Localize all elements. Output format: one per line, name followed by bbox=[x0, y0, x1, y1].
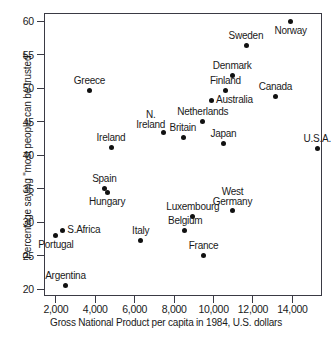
data-point-label: France bbox=[189, 241, 219, 252]
x-axis-tick-label: 14,000 bbox=[264, 303, 320, 315]
data-point-label: Japan bbox=[210, 129, 236, 140]
data-point-label: Netherlands bbox=[177, 107, 228, 118]
data-point-label: Greece bbox=[74, 76, 105, 87]
y-axis-tick bbox=[37, 255, 45, 256]
data-point[interactable] bbox=[138, 238, 143, 243]
plot-frame bbox=[44, 13, 322, 296]
data-point-label: Finland bbox=[210, 76, 241, 87]
y-axis-tick bbox=[37, 222, 45, 223]
data-point[interactable] bbox=[209, 98, 214, 103]
y-axis-tick bbox=[37, 121, 45, 122]
data-point-label: Norway bbox=[274, 26, 306, 37]
data-point-label: Italy bbox=[132, 226, 149, 237]
data-point-label: Portugal bbox=[38, 240, 73, 251]
data-point-label: Denmark bbox=[213, 61, 252, 72]
data-point-label: Luxembourg bbox=[166, 202, 219, 213]
y-axis-title: Percentage saying "most people can be tr… bbox=[22, 11, 33, 301]
data-point[interactable] bbox=[181, 135, 186, 140]
data-point[interactable] bbox=[109, 145, 114, 150]
y-axis-tick bbox=[37, 54, 45, 55]
x-axis-tick bbox=[292, 296, 293, 303]
data-point-label: S.Africa bbox=[67, 225, 100, 236]
x-axis-tick bbox=[213, 296, 214, 303]
data-point-label: Sweden bbox=[229, 31, 264, 42]
data-point[interactable] bbox=[87, 88, 92, 93]
data-point-label: Ireland bbox=[97, 133, 126, 144]
x-axis-title: Gross National Product per capita in 198… bbox=[0, 317, 332, 328]
y-axis-tick bbox=[37, 188, 45, 189]
data-point-label: Australia bbox=[216, 95, 253, 106]
y-axis-tick bbox=[37, 155, 45, 156]
data-point[interactable] bbox=[315, 146, 320, 151]
data-point[interactable] bbox=[105, 190, 110, 195]
x-axis-tick bbox=[95, 296, 96, 303]
y-axis-tick bbox=[37, 289, 45, 290]
data-point-label: Argentina bbox=[45, 271, 86, 282]
data-point-label: N.Ireland bbox=[136, 110, 165, 130]
data-point-label: Hungary bbox=[89, 197, 125, 208]
data-point-label: Canada bbox=[259, 82, 293, 93]
y-axis-tick bbox=[37, 21, 45, 22]
x-axis-tick bbox=[134, 296, 135, 303]
x-axis-tick bbox=[252, 296, 253, 303]
data-point-label: U.S.A. bbox=[304, 134, 331, 145]
x-axis-tick bbox=[174, 296, 175, 303]
data-point[interactable] bbox=[221, 141, 226, 146]
data-point-label: Britain bbox=[170, 123, 197, 134]
data-point-label: Spain bbox=[92, 174, 116, 185]
scatter-chart: 2025303540455055602,0004,0006,0008,00010… bbox=[0, 0, 332, 338]
data-point[interactable] bbox=[244, 43, 249, 48]
data-point-label: Belgium bbox=[168, 216, 202, 227]
y-axis-tick bbox=[37, 88, 45, 89]
x-axis-tick bbox=[55, 296, 56, 303]
data-point[interactable] bbox=[161, 130, 166, 135]
